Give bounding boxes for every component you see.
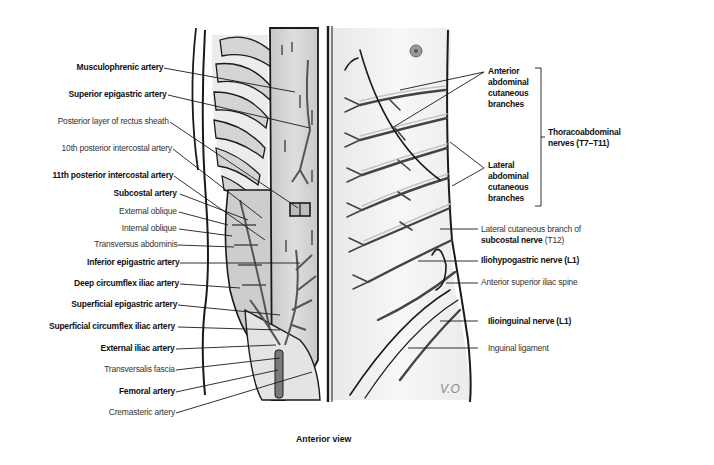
label-line: cutaneous [488,88,529,99]
label-iliohypogastric-nerve: Iliohypogastric nerve (L1) [481,255,579,266]
label-superficial-circumflex-iliac-artery: Superficial circumflex iliac artery [49,321,175,332]
label-line: Lateral cutaneous branch of [481,224,581,235]
label-deep-circumflex-iliac-artery: Deep circumflex iliac artery [74,278,179,289]
label-line: branches [488,99,529,110]
label-transversus-abdominis: Transversus abdominis [94,239,177,250]
label-t12: (T12) [543,235,564,245]
label-line: cutaneous [488,182,529,193]
label-lateral-abdominal-cutaneous-branches: Lateral abdominal cutaneous branches [488,160,529,204]
label-subcostal-artery: Subcostal artery [114,188,177,199]
label-external-iliac-artery: External iliac artery [101,343,175,354]
artist-signature: V.O [440,382,460,396]
label-line: Thoracoabdominal [548,127,621,138]
label-lateral-cutaneous-branch-subcostal: Lateral cutaneous branch of subcostal ne… [481,224,581,246]
label-superficial-epigastric-artery: Superficial epigastric artery [71,299,177,310]
label-line: Anterior [488,66,529,77]
label-transversalis-fascia: Transversalis fascia [104,364,175,375]
label-superior-epigastric-artery: Superior epigastric artery [69,89,167,100]
label-femoral-artery: Femoral artery [119,386,175,397]
label-external-oblique: External oblique [119,206,177,217]
label-musculophrenic-artery: Musculophrenic artery [76,62,163,73]
label-anterior-abdominal-cutaneous-branches: Anterior abdominal cutaneous branches [488,66,529,110]
label-inguinal-ligament: Inguinal ligament [488,343,549,354]
label-11th-posterior-intercostal-artery: 11th posterior intercostal artery [52,170,173,181]
label-inferior-epigastric-artery: Inferior epigastric artery [87,257,179,268]
label-line: Lateral [488,160,529,171]
label-thoracoabdominal-nerves: Thoracoabdominal nerves (T7–T11) [548,127,621,149]
label-posterior-layer-rectus-sheath: Posterior layer of rectus sheath [58,116,169,127]
label-line: subcostal nerve (T12) [481,235,581,246]
label-anterior-superior-iliac-spine: Anterior superior iliac spine [481,277,578,288]
label-line: nerves (T7–T11) [548,138,621,149]
label-cremasteric-artery: Cremasteric artery [109,407,175,418]
label-internal-oblique: Internal oblique [122,223,177,234]
label-line: abdominal [488,77,529,88]
label-line: branches [488,193,529,204]
figure-caption: Anterior view [296,433,351,444]
label-line: abdominal [488,171,529,182]
anatomy-figure: Musculophrenic artery Superior epigastri… [0,0,714,465]
label-10th-posterior-intercostal-artery: 10th posterior intercostal artery [62,143,172,154]
label-ilioinguinal-nerve: Ilioinguinal nerve (L1) [488,316,571,327]
label-subcostal-nerve: subcostal nerve [481,235,543,245]
